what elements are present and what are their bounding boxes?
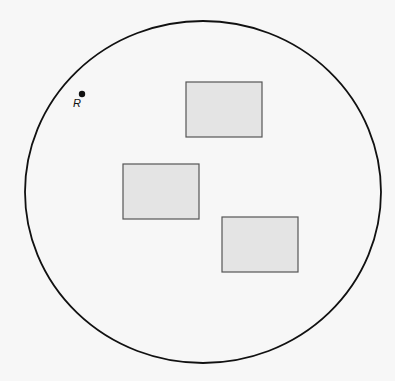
- point-r-label: R: [73, 97, 81, 109]
- diagram-canvas: R: [0, 0, 395, 381]
- rectangle-middle-left: [123, 164, 199, 219]
- rectangle-top-right: [186, 82, 262, 137]
- rectangle-bottom-right: [222, 217, 298, 272]
- circular-region-boundary: [25, 21, 381, 363]
